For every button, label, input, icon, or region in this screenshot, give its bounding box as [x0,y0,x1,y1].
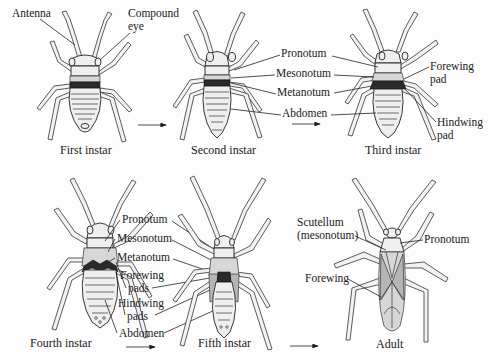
label-compound-eye-line1: Compound [128,7,179,20]
label-forewing-pads-4-5-line1: Forewing [120,269,164,282]
label-hindwing-pad-3-line2: pad [437,129,454,142]
caption-third-instar: Third instar [365,143,421,157]
label-hindwing-pads-4-5-line1: Hindwing [118,297,164,310]
label-abdomen-2: Abdomen [282,107,328,119]
label-abdomen-4-5: Abdomen [119,327,165,339]
label-forewing-adult: Forewing [305,272,349,285]
first-instar-figure [37,11,132,142]
label-forewing-pad-3-line2: pad [430,73,447,86]
leader-mesonotum-2 [231,75,275,78]
label-mesonotum-4-5: Mesonotum [117,232,172,244]
label-metanotum-4-5: Metanotum [117,251,170,263]
label-hindwing-pads-4-5-line2: pads [127,310,149,323]
label-forewing-pad-3-line1: Forewing [430,60,474,73]
second-instar-figure [173,10,262,140]
caption-adult: Adult [376,337,404,351]
leader-mesonotum-2-to-3 [334,75,374,77]
caption-second-instar: Second instar [191,143,256,157]
caption-fifth-instar: Fifth instar [198,336,251,350]
label-compound-eye-line2: eye [128,20,144,33]
caption-first-instar: First instar [60,143,112,157]
third-instar-figure [345,9,438,140]
fifth-instar-figure [173,176,272,350]
label-pronotum-adult: Pronotum [424,233,469,245]
leader-abdomen-2 [231,109,281,115]
adult-figure [334,178,448,342]
insect-development-diagram: Antenna Compound eye First instar Pronot… [0,0,491,360]
label-scutellum-line2: (mesonotum) [297,229,358,242]
label-hindwing-pad-3-line1: Hindwing [437,116,483,129]
leader-abdomen-2-to-3 [331,113,376,115]
leader-forewing-pad-3 [404,67,429,79]
label-mesonotum-2: Mesonotum [276,67,331,79]
label-forewing-pads-4-5-line2: pads [128,282,150,295]
label-scutellum-line1: Scutellum [297,216,344,228]
label-metanotum-2: Metanotum [277,86,330,98]
label-pronotum-4-5: Pronotum [122,213,167,225]
label-pronotum-2: Pronotum [281,47,326,59]
caption-fourth-instar: Fourth instar [30,336,92,350]
label-antenna: Antenna [12,7,51,19]
